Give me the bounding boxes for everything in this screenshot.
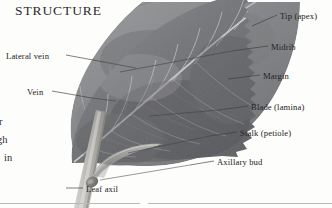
footer-rule-left (0, 203, 140, 204)
body-text-fragment-2: gh (0, 134, 8, 145)
label-margin: Margin (263, 71, 289, 81)
label-blade-lamina: Blade (lamina) (251, 102, 304, 112)
label-axillary-bud: Axillary bud (217, 157, 262, 167)
label-stalk-petiole: Stalk (petiole) (240, 128, 291, 138)
body-text-fragment-3: in (4, 152, 12, 163)
label-tip-apex: Tip (apex) (280, 11, 317, 21)
label-vein: Vein (27, 87, 43, 97)
leaf-structure-figure: STRUCTURE Tip (apex) Midrib Margin Blade… (0, 0, 332, 208)
label-lateral-vein: Lateral vein (6, 51, 49, 61)
label-midrib: Midrib (271, 42, 296, 52)
label-leaf-axil: Leaf axil (86, 184, 118, 194)
footer-rule-right (148, 203, 332, 204)
body-text-fragment-1: r (0, 116, 3, 127)
figure-title: STRUCTURE (15, 3, 102, 19)
